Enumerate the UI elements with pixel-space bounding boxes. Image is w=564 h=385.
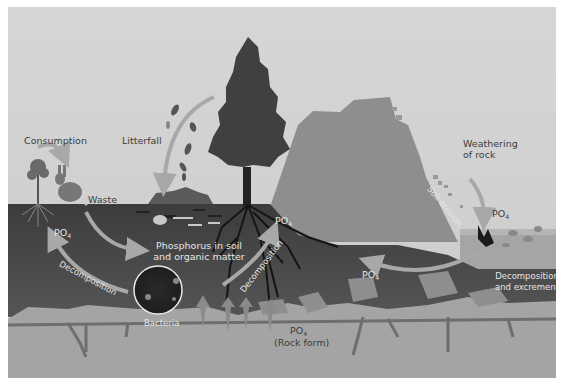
label-po4-left: PO4: [54, 227, 71, 241]
label-bacteria: Bacteria: [144, 318, 179, 329]
label-phosphorus-soil-line1: Phosphorus in soil: [144, 240, 254, 251]
scene-illustration: [8, 7, 556, 378]
label-po4-water: PO4: [492, 208, 509, 222]
label-phosphorus-soil-line2: and organic matter: [144, 251, 254, 262]
label-consumption: Consumption: [24, 135, 87, 146]
label-decomp-excrement-line2: and excrement: [492, 282, 556, 293]
label-litterfall: Litterfall: [122, 135, 162, 146]
water-body: [460, 229, 556, 271]
label-waste: Waste: [88, 194, 117, 205]
label-po4-middle: PO4: [362, 269, 379, 283]
tree-trunk: [243, 167, 251, 207]
label-weathering-line2: of rock: [463, 149, 495, 160]
label-decomp-excrement-line1: Decomposition: [492, 271, 556, 282]
phosphorus-cycle-diagram: Consumption Litterfall Waste Weathering …: [8, 7, 556, 378]
bacteria-inset: [134, 266, 182, 314]
label-weathering-line1: Weathering: [463, 138, 518, 149]
label-rock-form: (Rock form): [274, 337, 329, 348]
label-po4-tree: PO4: [275, 215, 292, 229]
